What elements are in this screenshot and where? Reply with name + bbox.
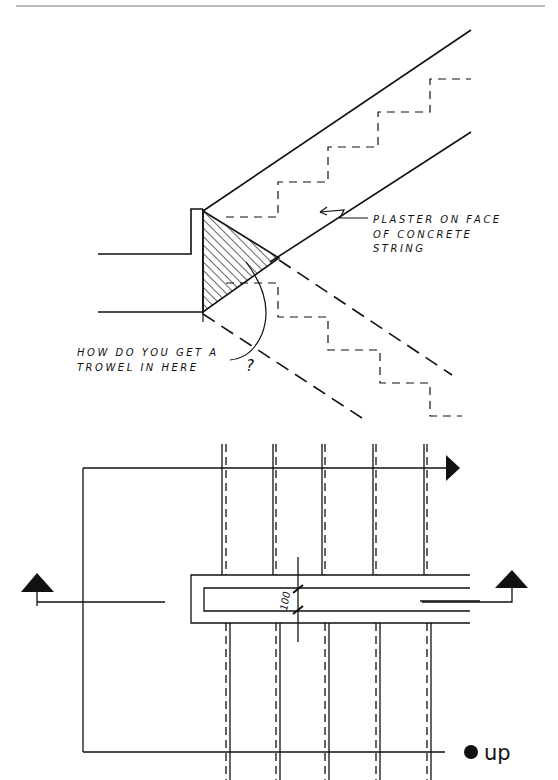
dimension-label: 100	[278, 591, 292, 612]
hatched-corner	[203, 211, 279, 312]
direction-label-up: up	[484, 741, 511, 765]
section-arrow-left-icon	[21, 573, 54, 592]
string-bottom-edge	[270, 132, 471, 262]
plan-drawing	[37, 444, 512, 780]
annotation-trowel-line2: TROWEL IN HERE	[77, 362, 199, 373]
tread-lines-lower	[226, 623, 431, 780]
annotation-trowel-mark: ?	[246, 357, 256, 375]
wall-step	[98, 209, 203, 254]
up-start-dot-icon	[464, 745, 478, 759]
annotation-trowel-line1: HOW DO YOU GET A	[77, 347, 219, 358]
slab-inner	[204, 588, 470, 611]
annotation-plaster-line3: STRING	[373, 243, 426, 254]
architectural-drawing: PLASTER ON FACE OF CONCRETE STRING HOW D…	[0, 0, 558, 780]
steps-dashed-up	[226, 79, 471, 217]
annotation-plaster-line2: OF CONCRETE	[373, 229, 472, 240]
annotation-plaster-line1: PLASTER ON FACE	[373, 214, 502, 225]
string-top-edge	[203, 30, 471, 211]
direction-arrow-right-icon	[446, 455, 460, 481]
section-arrow-right-icon	[495, 570, 528, 588]
slab-outer	[191, 575, 470, 623]
soffit-dashed-lower	[203, 314, 365, 420]
tread-lines-upper	[222, 444, 427, 575]
